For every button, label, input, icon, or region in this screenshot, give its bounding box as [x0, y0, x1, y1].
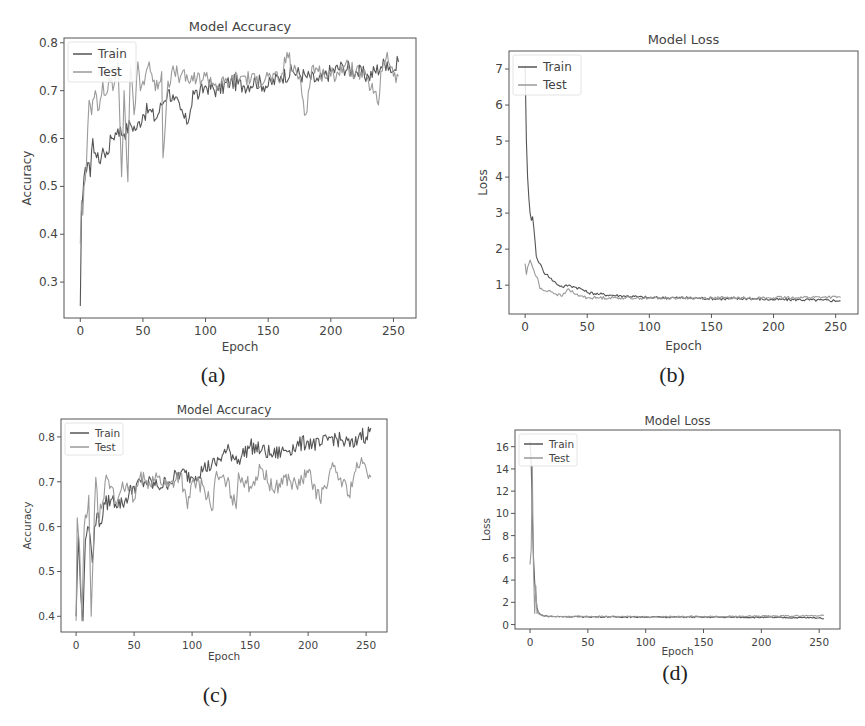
x-tick-label: 100: [638, 320, 661, 334]
y-tick-label: 6: [495, 98, 503, 112]
figure: Model Accuracy0501001502002500.30.40.50.…: [0, 0, 865, 726]
y-tick-label: 2: [495, 242, 503, 256]
legend: TrainTest: [513, 55, 581, 95]
legend-label-train: Train: [542, 60, 572, 74]
y-tick-label: 5: [495, 134, 503, 148]
x-tick-label: 200: [751, 636, 771, 648]
y-axis-label: Loss: [480, 518, 492, 541]
legend-label-test: Test: [548, 452, 570, 464]
x-tick-label: 200: [298, 639, 318, 651]
legend: TrainTest: [65, 423, 123, 455]
x-tick-label: 50: [581, 636, 594, 648]
x-tick-label: 100: [194, 324, 217, 338]
y-axis-label: Accuracy: [20, 151, 34, 206]
caption-c: (c): [203, 682, 227, 708]
legend: TrainTest: [68, 42, 136, 82]
x-tick-label: 200: [762, 320, 785, 334]
legend: TrainTest: [519, 434, 577, 466]
y-tick-label: 0.5: [39, 179, 58, 193]
chart-panel-a: Model Accuracy0501001502002500.30.40.50.…: [20, 19, 416, 354]
legend-label-train: Train: [97, 47, 127, 61]
y-tick-label: 1: [495, 278, 503, 292]
y-tick-label: 6: [502, 552, 509, 564]
y-tick-label: 0.5: [38, 565, 55, 577]
y-tick-label: 0.4: [38, 610, 55, 622]
y-tick-label: 0.8: [38, 431, 55, 443]
x-axis-label: Epoch: [208, 650, 240, 662]
legend-label-train: Train: [94, 427, 120, 439]
caption-d: (d): [662, 660, 688, 686]
x-tick-label: 150: [700, 320, 723, 334]
y-tick-label: 0.6: [39, 132, 58, 146]
x-axis-label: Epoch: [222, 340, 259, 354]
y-tick-label: 3: [495, 206, 503, 220]
y-tick-label: 14: [496, 463, 510, 475]
y-tick-label: 0.3: [39, 275, 58, 289]
x-tick-label: 50: [135, 324, 150, 338]
x-tick-label: 0: [521, 320, 529, 334]
y-tick-label: 8: [502, 530, 509, 542]
x-tick-label: 100: [182, 639, 202, 651]
y-tick-label: 0.8: [39, 36, 58, 50]
y-axis-label: Accuracy: [21, 502, 33, 550]
chart-panel-b: Model Loss0501001502002501234567EpochLos…: [476, 32, 858, 353]
chart-title: Model Loss: [648, 32, 720, 47]
series-train-line: [525, 65, 841, 301]
y-tick-label: 10: [496, 507, 509, 519]
y-axis-label: Loss: [476, 169, 490, 195]
legend-label-test: Test: [94, 441, 116, 453]
x-axis-label: Epoch: [661, 645, 693, 657]
y-tick-label: 0: [502, 619, 509, 631]
legend-label-test: Test: [542, 78, 567, 92]
caption-a: (a): [201, 362, 225, 388]
x-tick-label: 150: [693, 636, 713, 648]
x-tick-label: 150: [257, 324, 280, 338]
y-tick-label: 4: [495, 170, 503, 184]
x-tick-label: 200: [319, 324, 342, 338]
x-tick-label: 150: [240, 639, 260, 651]
chart-panel-d: Model Loss0501001502002500246810121416Ep…: [480, 414, 840, 657]
chart-panel-c: Model Accuracy0501001502002500.40.50.60.…: [21, 403, 387, 662]
series-train-line: [76, 427, 371, 621]
caption-b: (b): [659, 362, 685, 388]
legend-label-test: Test: [97, 65, 122, 79]
x-tick-label: 100: [636, 636, 656, 648]
x-tick-label: 50: [580, 320, 595, 334]
chart-title: Model Accuracy: [189, 19, 292, 34]
y-tick-label: 0.4: [39, 227, 58, 241]
x-tick-label: 0: [76, 324, 84, 338]
x-tick-label: 0: [73, 639, 80, 651]
x-tick-label: 250: [382, 324, 405, 338]
y-tick-label: 4: [502, 574, 509, 586]
series-test-line: [76, 458, 371, 621]
x-tick-label: 0: [527, 636, 534, 648]
y-tick-label: 16: [496, 441, 510, 453]
legend-label-train: Train: [548, 438, 574, 450]
series-test-line: [525, 260, 841, 300]
chart-title: Model Accuracy: [177, 403, 272, 417]
y-tick-label: 7: [495, 62, 503, 76]
chart-title: Model Loss: [644, 414, 710, 428]
chart-canvas: Model Accuracy0501001502002500.30.40.50.…: [0, 0, 865, 726]
x-tick-label: 250: [824, 320, 847, 334]
y-tick-label: 0.7: [39, 84, 58, 98]
x-tick-label: 250: [356, 639, 376, 651]
series-train-line: [530, 441, 824, 619]
x-axis-label: Epoch: [665, 339, 702, 353]
x-tick-label: 250: [809, 636, 829, 648]
y-tick-label: 0.7: [38, 476, 55, 488]
y-tick-label: 12: [496, 485, 509, 497]
x-tick-label: 50: [127, 639, 140, 651]
series-test-line: [530, 466, 824, 618]
y-tick-label: 0.6: [38, 521, 55, 533]
y-tick-label: 2: [502, 596, 509, 608]
